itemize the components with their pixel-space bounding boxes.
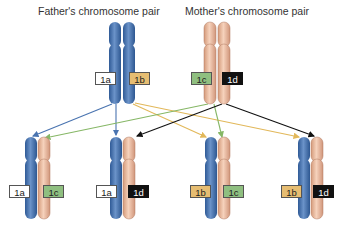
allele-label-1a: 1a [95, 72, 116, 85]
child3-label-1c: 1c [223, 185, 244, 198]
arrow-1b-to-child3 [133, 104, 206, 137]
child1-label-1a: 1a [9, 185, 30, 198]
allele-label-1d: 1d [222, 72, 243, 85]
offspring-pair-4 [298, 137, 323, 219]
child2-label-1a: 1a [96, 185, 117, 198]
arrow-1a-to-child1 [33, 104, 112, 136]
child1-label-1c: 1c [43, 185, 64, 198]
child4-label-1d: 1d [313, 185, 334, 198]
allele-label-1b: 1b [129, 72, 150, 85]
offspring-pair-1 [25, 137, 50, 219]
inheritance-arrows [33, 103, 314, 138]
allele-label-1c: 1c [191, 72, 212, 85]
arrow-1b-to-child4 [135, 103, 299, 137]
child2-label-1d: 1d [128, 185, 149, 198]
father-chromosome-pair [109, 22, 135, 104]
arrow-1d-to-child2 [137, 104, 222, 136]
mother-chromosome-pair [204, 22, 230, 104]
offspring-pair-2 [110, 137, 135, 219]
offspring-pair-3 [205, 137, 230, 219]
child3-label-1b: 1b [190, 185, 211, 198]
child4-label-1b: 1b [281, 185, 302, 198]
